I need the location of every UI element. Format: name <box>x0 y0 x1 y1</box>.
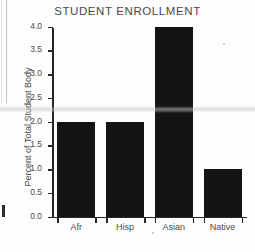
x-axis-category-label: Afr <box>52 222 101 232</box>
scan-artifact-speck <box>152 232 154 234</box>
y-axis-tick: 2.0 <box>48 122 53 124</box>
y-axis-tick-label: 2.0 <box>30 116 42 126</box>
y-axis-tick: 0.0 <box>48 217 53 219</box>
plot-area: 0.00.51.01.52.02.53.03.54.0 AfrHispAsian… <box>52 28 247 218</box>
y-axis-tick: 4.0 <box>48 27 53 29</box>
bar <box>204 169 242 217</box>
x-axis-category-label: Hisp <box>101 222 150 232</box>
y-axis-tick: 3.5 <box>48 50 53 52</box>
bar <box>106 122 144 217</box>
chart-title: STUDENT ENROLLMENT <box>0 5 255 17</box>
y-axis-tick-label: 1.0 <box>30 163 42 173</box>
y-axis-tick-label: 0.0 <box>30 211 42 221</box>
y-axis-line <box>52 28 54 218</box>
x-axis-category-label: Native <box>198 222 247 232</box>
y-axis-tick: 2.5 <box>48 98 53 100</box>
y-axis-tick-label: 1.5 <box>30 139 42 149</box>
x-axis-line <box>52 217 247 219</box>
y-axis-tick: 1.0 <box>48 169 53 171</box>
y-axis-tick: 0.5 <box>48 193 53 195</box>
scan-artifact-edge-mark <box>2 205 5 217</box>
y-axis-tick-label: 3.0 <box>30 68 42 78</box>
y-axis-tick-label: 2.5 <box>30 92 42 102</box>
y-axis-tick: 3.0 <box>48 74 53 76</box>
bar <box>57 122 95 217</box>
bar <box>155 27 193 217</box>
chart-page: STUDENT ENROLLMENT Percent of Total Stud… <box>0 0 255 252</box>
y-axis-tick-label: 3.5 <box>30 44 42 54</box>
y-axis-tick: 1.5 <box>48 145 53 147</box>
y-axis-tick-label: 4.0 <box>30 21 42 31</box>
y-axis-tick-label: 0.5 <box>30 187 42 197</box>
x-axis-category-label: Asian <box>150 222 199 232</box>
